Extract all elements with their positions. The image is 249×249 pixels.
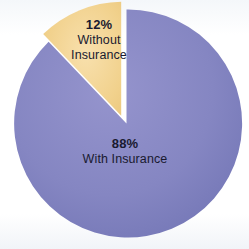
with-insurance-label: 88% With Insurance	[70, 136, 180, 167]
without-insurance-label: 12% Without Insurance	[57, 17, 141, 63]
without-insurance-caption-line2: Insurance	[57, 48, 141, 63]
with-insurance-percent: 88%	[70, 136, 180, 152]
pie-chart-figure: 12% Without Insurance 88% With Insurance	[0, 0, 249, 249]
without-insurance-percent: 12%	[57, 17, 141, 33]
with-insurance-caption-line1: With Insurance	[70, 152, 180, 167]
without-insurance-caption-line1: Without	[57, 33, 141, 48]
